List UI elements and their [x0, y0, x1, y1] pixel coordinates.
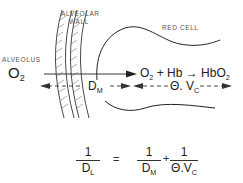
dm-label: DM — [88, 79, 103, 95]
alveolar-wall-label-line2: WALL — [69, 18, 89, 25]
alveolar-wall-label-line1: ALVEOLAR — [61, 10, 100, 17]
dm-fraction: 1 DM — [137, 146, 161, 179]
alveolar-o2: O2 — [8, 64, 25, 83]
o2-flow-arrow — [44, 71, 137, 78]
theta-vc-label: Θ. VC — [170, 79, 199, 95]
plus-sign: + — [163, 152, 169, 164]
red-cell-label: RED CELL — [162, 24, 199, 31]
equals-sign: = — [113, 153, 119, 165]
theta-vc-fraction: 1 Θ.VC — [170, 146, 198, 179]
wall-hatching — [56, 16, 83, 108]
alveolus-label: ALVEOLUS — [2, 56, 41, 63]
diffusion-diagram — [0, 0, 243, 183]
lhs-fraction: 1 DL — [76, 146, 100, 179]
dm-dashed-arrow — [40, 83, 131, 89]
